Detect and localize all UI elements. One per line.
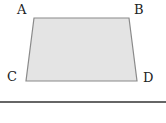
- vertex-label-b: B: [134, 2, 144, 17]
- vertex-label-a: A: [16, 2, 27, 17]
- vertex-label-d: D: [143, 70, 153, 85]
- trapezoid-shape: [26, 18, 137, 81]
- vertex-label-c: C: [7, 69, 17, 84]
- trapezoid-diagram: A B C D: [0, 0, 166, 123]
